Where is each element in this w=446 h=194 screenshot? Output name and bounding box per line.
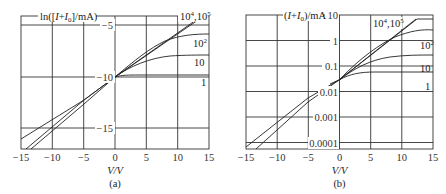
svg-text:−15: −15 bbox=[238, 152, 254, 163]
panel-a-chart: −5 −10 −15 ln([I+I0]/mA) 104,105 102 10 … bbox=[13, 10, 214, 190]
panel-b-label-1: 1 bbox=[425, 81, 430, 92]
svg-text:10: 10 bbox=[328, 10, 339, 21]
panel-a-xticks: −15 −10 −5 0 5 10 15 bbox=[13, 152, 214, 163]
panel-b-caption: (b) bbox=[333, 178, 346, 190]
panel-b-curve-1 bbox=[340, 72, 434, 80]
panel-a-caption: (a) bbox=[109, 178, 121, 190]
panel-b-curve-10 bbox=[330, 55, 433, 84]
svg-text:0: 0 bbox=[337, 152, 342, 163]
panel-a-ytick: −5 bbox=[102, 20, 113, 31]
panel-a-ytick: −10 bbox=[97, 72, 113, 83]
panel-a-curve-10 bbox=[26, 55, 209, 149]
svg-text:0.01: 0.01 bbox=[320, 87, 338, 98]
svg-text:0.0001: 0.0001 bbox=[309, 138, 338, 149]
panel-b-label-10: 10 bbox=[420, 63, 431, 74]
svg-text:5: 5 bbox=[368, 152, 373, 163]
panel-b-xlabel: V/V bbox=[332, 165, 349, 176]
panel-a-label-1: 1 bbox=[201, 77, 206, 88]
figure: −5 −10 −15 ln([I+I0]/mA) 104,105 102 10 … bbox=[0, 0, 446, 194]
svg-text:−10: −10 bbox=[269, 152, 285, 163]
svg-text:−15: −15 bbox=[13, 152, 29, 163]
panel-b-ylabel: (I+I0)/mA bbox=[284, 10, 327, 23]
panel-b-vgrid bbox=[277, 15, 402, 149]
panel-a-xlabel: V/V bbox=[107, 165, 124, 176]
svg-text:−5: −5 bbox=[303, 152, 314, 163]
panel-a-yticks: −5 −10 −15 bbox=[95, 19, 115, 134]
svg-text:0.1: 0.1 bbox=[325, 61, 338, 72]
panel-a-ytick: −15 bbox=[97, 123, 113, 134]
svg-text:−10: −10 bbox=[44, 152, 60, 163]
panel-a-label-100: 102 bbox=[193, 37, 208, 49]
svg-text:0: 0 bbox=[112, 152, 117, 163]
svg-text:0.001: 0.001 bbox=[314, 112, 338, 123]
panel-a-label-1e4-1e5: 104,105 bbox=[180, 10, 211, 22]
svg-text:10: 10 bbox=[397, 152, 408, 163]
panel-b-yticks: 10 1 0.1 0.01 0.001 0.0001 bbox=[308, 9, 339, 149]
panel-b-label-1e4-1e5: 104,105 bbox=[373, 17, 404, 29]
panel-a-label-10: 10 bbox=[194, 57, 205, 68]
panel-b-xticks: −15 −10 −5 0 5 10 15 bbox=[238, 152, 438, 163]
svg-text:10: 10 bbox=[172, 152, 183, 163]
svg-text:5: 5 bbox=[144, 152, 149, 163]
svg-text:1: 1 bbox=[333, 36, 338, 47]
svg-text:15: 15 bbox=[204, 152, 215, 163]
svg-text:−5: −5 bbox=[78, 152, 89, 163]
panel-b-label-100: 102 bbox=[420, 39, 435, 51]
svg-text:15: 15 bbox=[428, 152, 439, 163]
panel-b-chart: 10 1 0.1 0.01 0.001 0.0001 (I+I0)/mA 104… bbox=[238, 9, 438, 190]
